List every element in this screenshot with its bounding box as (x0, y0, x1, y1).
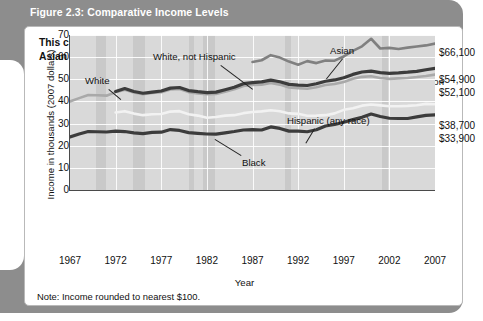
figure-panel-notch (0, 60, 24, 270)
y-tick-label: 20 (43, 141, 69, 151)
y-tick-label: 30 (43, 119, 69, 129)
y-tick-label: 0 (43, 185, 69, 195)
x-tick-label: 1967 (48, 255, 92, 266)
end-label-hispanic: $38,700 (439, 120, 475, 131)
figure-note: Note: Income rounded to nearest $100. (37, 291, 200, 302)
end-label-white-not-hispanic: $54,900 (439, 74, 475, 85)
x-axis-line (69, 190, 435, 191)
series-line-black (70, 114, 435, 137)
figure-container: Figure 2.3: Comparative Income Levels Th… (0, 0, 483, 321)
annotation-white-not-hispanic: White, not Hispanic (153, 51, 236, 62)
x-tick-label: 1977 (139, 255, 183, 266)
end-label-white: $52,100 (439, 87, 475, 98)
y-axis-line (69, 35, 70, 190)
y-tick-label: 50 (43, 74, 69, 84)
x-axis-ticks: 196719721977198219871992199720022007 (25, 255, 464, 269)
figure-title: Figure 2.3: Comparative Income Levels (30, 6, 229, 18)
chart-area: Income in thousands (2007 dollars) 01020… (25, 27, 464, 307)
x-axis-title: Year (25, 277, 464, 288)
x-tick-label: 1992 (276, 255, 320, 266)
figure-card: This chart shows the median household in… (24, 26, 463, 306)
x-tick-label: 2002 (367, 255, 411, 266)
x-tick-label: 1987 (231, 255, 275, 266)
series-line-hispanic-any-race (116, 104, 435, 118)
x-tick-label: 1972 (94, 255, 138, 266)
y-tick-label: 70 (43, 30, 69, 40)
x-tick-label: 2007 (413, 255, 457, 266)
series-line-white-not-hispanic (116, 68, 435, 93)
end-label-black: $33,900 (439, 133, 475, 144)
annotation-white: White (85, 75, 110, 86)
end-label-asian: $66,100 (439, 47, 475, 58)
x-tick-label: 1997 (322, 255, 366, 266)
annotation-asian: Asian (330, 45, 354, 56)
annotation-hispanic: Hispanic (any race) (287, 115, 370, 126)
y-tick-label: 40 (43, 96, 69, 106)
annotation-black: Black (242, 157, 265, 168)
y-tick-label: 10 (43, 163, 69, 173)
x-tick-label: 1982 (185, 255, 229, 266)
y-tick-label: 60 (43, 52, 69, 62)
